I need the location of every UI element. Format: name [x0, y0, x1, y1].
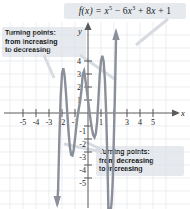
x-tick-label: 4 [138, 118, 142, 127]
y-tick-label: -1 [79, 127, 86, 136]
formula-term3-base: x [151, 7, 155, 17]
x-tick-label: 5 [151, 118, 155, 127]
y-axis-arrow [85, 22, 92, 30]
y-tick-label: -5 [79, 179, 86, 188]
function-formula: f(x) = x5 − 6x3 + 8x + 1 [79, 5, 171, 16]
x-tick-label: 1 [99, 118, 103, 127]
graph-plot-area: -5 -4 -3 -2 -1 1 3 4 5 4 3 2 1 -1 -2 -3 … [0, 22, 190, 209]
grid-lines [0, 22, 190, 209]
formula-op1: − 6 [115, 7, 128, 17]
axes [4, 22, 180, 208]
x-tick-label: -4 [33, 118, 40, 127]
x-tick-label: -3 [46, 118, 53, 127]
x-tick-label: -5 [20, 118, 27, 127]
formula-term2-exponent: 3 [132, 5, 135, 11]
y-axis-label: y [77, 26, 82, 36]
y-tick-label: -3 [79, 153, 86, 162]
y-tick-label: -4 [79, 166, 86, 175]
y-tick-label: 4 [77, 57, 81, 66]
y-tick-label: -2 [79, 140, 86, 149]
figure-container: f(x) = x5 − 6x3 + 8x + 1 Turning points:… [0, 0, 190, 209]
curve-up-arrow [112, 28, 119, 40]
formula-fx: f(x) = [79, 7, 102, 17]
coordinate-plane: -5 -4 -3 -2 -1 1 3 4 5 4 3 2 1 -1 -2 -3 … [0, 22, 190, 209]
x-tick-label: 3 [125, 118, 129, 127]
formula-banner: f(x) = x5 − 6x3 + 8x + 1 [64, 3, 186, 19]
function-curve-left-branch [54, 190, 61, 208]
curve-down-arrow [54, 196, 61, 208]
x-axis-arrow [172, 110, 180, 117]
y-tick-label: 3 [77, 70, 81, 79]
formula-term1-exponent: 5 [109, 5, 112, 11]
formula-op3: + 1 [158, 7, 171, 17]
x-axis-label: x [180, 108, 185, 118]
formula-op2: + 8 [138, 7, 151, 17]
